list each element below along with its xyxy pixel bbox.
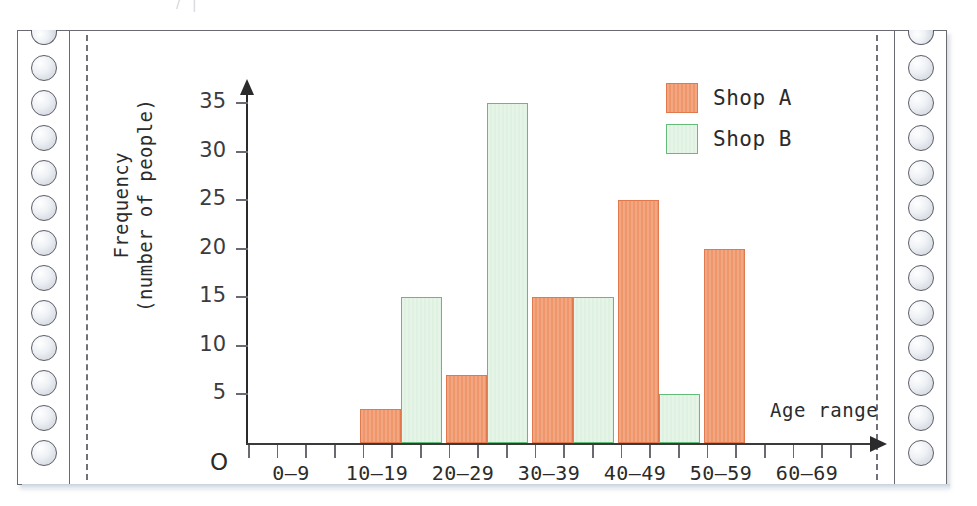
x-axis-tick: [649, 445, 651, 458]
y-axis-tick-label: 5: [180, 380, 226, 404]
chart-plot-area: O Frequency (number of people) Age range…: [70, 31, 894, 484]
y-axis-title-line2: (number of people): [133, 80, 157, 330]
y-axis-tick-label: 35: [180, 89, 226, 113]
x-axis-tick: [477, 445, 479, 458]
legend-swatch-shop-b: [666, 124, 698, 154]
sprocket-hole: [31, 160, 57, 186]
sprocket-hole: [908, 90, 934, 116]
legend-label-shop-a: Shop A: [713, 86, 792, 110]
sprocket-hole: [908, 160, 934, 186]
x-axis-tick: [764, 445, 766, 458]
x-axis-tick: [506, 445, 508, 458]
sprocket-hole: [31, 300, 57, 326]
sprocket-hole: [31, 405, 57, 431]
sprocket-hole: [908, 370, 934, 396]
x-axis-tick: [391, 445, 393, 458]
x-axis-tick: [248, 445, 250, 458]
printer-paper-sheet: O Frequency (number of people) Age range…: [17, 30, 947, 485]
sprocket-hole: [31, 335, 57, 361]
sprocket-hole: [908, 265, 934, 291]
y-axis-tick: [236, 102, 248, 104]
legend-swatch-shop-a: [666, 83, 698, 113]
x-axis-tick: [592, 445, 594, 458]
x-axis-title: Age range: [770, 399, 878, 421]
x-axis-tick: [563, 445, 565, 458]
x-axis-tick: [334, 445, 336, 458]
y-axis-arrow-icon: [240, 79, 254, 95]
y-axis-tick-label: 25: [180, 186, 226, 210]
y-axis-title: Frequency (number of people): [109, 80, 158, 330]
y-axis-tick: [236, 296, 248, 298]
x-axis-tick: [535, 445, 537, 458]
origin-marker: O: [210, 449, 228, 475]
bar-shop-a-10-19: [360, 409, 401, 443]
bar-shop-a-50-59: [704, 249, 745, 443]
sprocket-hole: [908, 440, 934, 466]
sprocket-hole: [31, 90, 57, 116]
y-axis-tick: [236, 199, 248, 201]
sprocket-hole: [31, 195, 57, 221]
bar-shop-a-20-29: [446, 375, 487, 443]
y-axis-tick-label: 15: [180, 283, 226, 307]
x-axis-tick: [821, 445, 823, 458]
x-axis-tick: [793, 445, 795, 458]
sprocket-hole: [31, 230, 57, 256]
sprocket-hole: [908, 125, 934, 151]
x-axis-arrow-icon: [870, 436, 887, 452]
sprocket-hole: [31, 125, 57, 151]
sprocket-hole: [31, 370, 57, 396]
x-axis-category-label: 0–9: [248, 461, 334, 485]
bar-shop-b-40-49: [659, 394, 700, 443]
x-axis-tick: [420, 445, 422, 458]
x-axis-tick: [305, 445, 307, 458]
chart-legend: Shop A Shop B: [666, 83, 792, 165]
legend-label-shop-b: Shop B: [713, 127, 792, 151]
sprocket-hole: [31, 440, 57, 466]
x-axis-category-label: 30–39: [506, 461, 592, 485]
screenshot-stage: / | O Frequency (number of people) Age r…: [0, 0, 977, 506]
x-axis-line: [246, 443, 872, 445]
x-axis-tick: [363, 445, 365, 458]
y-axis-tick-label: 10: [180, 332, 226, 356]
sprocket-hole: [31, 30, 57, 45]
y-axis-tick-label: 20: [180, 235, 226, 259]
sprocket-hole: [908, 405, 934, 431]
y-axis-line: [246, 93, 248, 445]
page-top-ghost-text: / |: [176, 0, 200, 12]
bar-shop-b-20-29: [487, 103, 528, 443]
x-axis-tick: [621, 445, 623, 458]
sprocket-hole: [908, 230, 934, 256]
bar-shop-b-10-19: [401, 297, 442, 443]
sprocket-hole: [908, 55, 934, 81]
x-axis-tick: [449, 445, 451, 458]
x-axis-category-label: 60–69: [764, 461, 850, 485]
x-axis-tick: [277, 445, 279, 458]
y-axis-tick-label: 30: [180, 138, 226, 162]
y-axis-tick: [236, 393, 248, 395]
sprocket-hole: [31, 265, 57, 291]
y-axis-tick: [236, 248, 248, 250]
x-axis-tick: [850, 445, 852, 458]
legend-item-shop-a: Shop A: [666, 83, 792, 113]
bar-shop-b-30-39: [573, 297, 614, 443]
x-axis-category-label: 40–49: [592, 461, 678, 485]
sprocket-hole: [908, 335, 934, 361]
sprocket-strip-right: [894, 31, 946, 484]
x-axis-category-label: 50–59: [678, 461, 764, 485]
bar-shop-a-30-39: [532, 297, 573, 443]
x-axis-tick: [707, 445, 709, 458]
x-axis-category-label: 20–29: [420, 461, 506, 485]
sprocket-hole: [908, 300, 934, 326]
y-axis-tick: [236, 151, 248, 153]
sprocket-hole: [31, 55, 57, 81]
sprocket-hole: [908, 195, 934, 221]
bar-shop-a-40-49: [618, 200, 659, 443]
y-axis-title-line1: Frequency: [109, 80, 133, 330]
sprocket-strip-left: [18, 31, 70, 484]
x-axis-tick: [678, 445, 680, 458]
y-axis-tick: [236, 345, 248, 347]
x-axis-tick: [735, 445, 737, 458]
x-axis-category-label: 10–19: [334, 461, 420, 485]
sprocket-hole: [908, 30, 934, 45]
legend-item-shop-b: Shop B: [666, 124, 792, 154]
